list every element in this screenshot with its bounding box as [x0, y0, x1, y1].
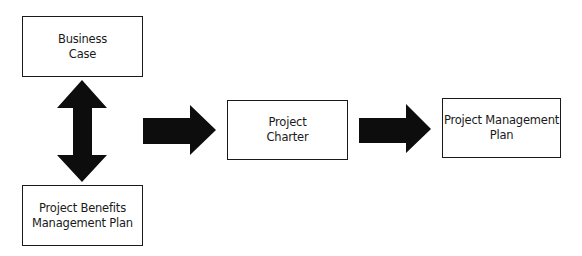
node-business-case: Business Case [22, 16, 143, 77]
node-project-management-plan-label: Project Management Plan [444, 113, 559, 143]
right-arrow-icon-2 [359, 104, 431, 153]
diagram-canvas: Business Case Project Benefits Managemen… [0, 0, 582, 256]
node-project-management-plan: Project Management Plan [442, 98, 561, 158]
node-business-case-label: Business Case [58, 32, 107, 62]
bidirectional-arrow-icon [57, 80, 107, 182]
right-arrow-icon-1 [143, 105, 216, 155]
node-benefits-management-plan-label: Project Benefits Management Plan [32, 201, 133, 231]
node-project-charter-label: Project Charter [266, 115, 308, 145]
node-project-charter: Project Charter [227, 100, 348, 160]
node-benefits-management-plan: Project Benefits Management Plan [22, 185, 143, 246]
